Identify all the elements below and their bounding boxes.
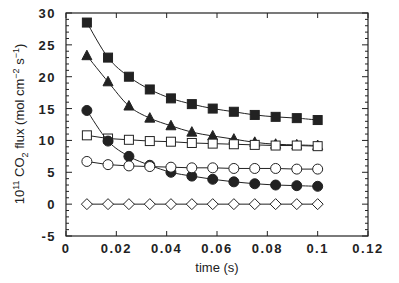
circle-marker [229,177,239,187]
series-open-circle [82,156,323,174]
series-open-diamond [81,199,323,210]
square-marker [313,116,322,125]
series-filled-circle [82,105,323,191]
circle-marker [124,151,134,161]
series-line [87,23,318,120]
diamond-marker [249,199,260,210]
circle-marker [229,163,239,173]
series-line [87,56,318,146]
square-marker [292,114,301,123]
diamond-marker [291,199,302,210]
circle-marker [271,180,281,190]
circle-marker [145,162,155,172]
circle-marker [208,163,218,173]
y-tick-label: 0 [47,197,56,212]
diamond-marker [312,199,323,210]
square-marker [208,139,217,148]
square-marker [82,18,91,27]
circle-marker [124,161,134,171]
square-marker [229,140,238,149]
x-tick-label: 0 [62,241,71,256]
circle-marker [292,164,302,174]
x-tick-label: 0.02 [101,241,132,256]
series-line [87,161,318,169]
diamond-marker [123,199,134,210]
diamond-marker [207,199,218,210]
square-marker [145,85,154,94]
series-layer [81,18,323,210]
square-marker [124,72,133,81]
y-tick-label: 10 [39,133,56,148]
y-tick-label: 15 [39,102,56,117]
y-tick-label: 5 [47,165,56,180]
circle-marker [313,164,323,174]
x-tick-label: 0.12 [352,241,383,256]
y-tick-label: 20 [39,70,56,85]
diamond-marker [186,199,197,210]
circle-marker [313,181,323,191]
diamond-marker [103,199,114,210]
square-marker [82,131,91,140]
square-marker [166,94,175,103]
series-filled-triangle [82,50,323,149]
diamond-marker [165,199,176,210]
y-axis-title: 1011 CO2 flux (mol cm−2 s−1) [11,44,30,205]
square-marker [271,112,280,121]
square-marker [208,104,217,113]
square-marker [166,137,175,146]
triangle-marker [145,113,155,123]
circle-marker [250,163,260,173]
square-marker [124,135,133,144]
circle-marker [82,156,92,166]
circle-marker [208,174,218,184]
square-marker [292,141,301,150]
co2-flux-chart: -5051015202530 00.020.040.060.080.10.12 … [0,0,399,283]
square-marker [250,110,259,119]
series-filled-square [82,18,322,124]
square-marker [250,140,259,149]
diamond-marker [144,199,155,210]
circle-marker [187,163,197,173]
x-tick-label: 0.04 [151,241,182,256]
circle-marker [103,160,113,170]
circle-marker [82,105,92,115]
x-tick-label: 0.08 [252,241,283,256]
square-marker [313,142,322,151]
triangle-marker [82,50,92,60]
circle-marker [271,163,281,173]
diamond-marker [270,199,281,210]
y-tick-label: 25 [39,38,56,53]
circle-marker [166,162,176,172]
y-tick-label: -5 [41,229,56,244]
x-axis-title: time (s) [195,260,238,275]
x-tick-label: 0.06 [201,241,232,256]
circle-marker [250,179,260,189]
square-marker [187,100,196,109]
y-tick-label: 30 [39,6,56,21]
square-marker [104,53,113,62]
square-marker [187,138,196,147]
circle-marker [103,136,113,146]
series-line [87,110,318,186]
diamond-marker [81,199,92,210]
circle-marker [292,181,302,191]
square-marker [145,137,154,146]
square-marker [271,141,280,150]
x-tick-label: 0.1 [306,241,329,256]
square-marker [229,107,238,116]
diamond-marker [228,199,239,210]
